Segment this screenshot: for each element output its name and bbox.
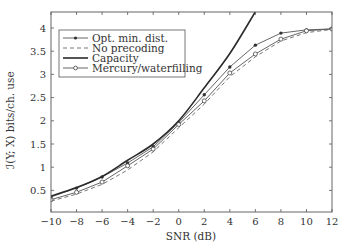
x-tick-label: 8 — [278, 216, 284, 227]
y-tick-label: 3.5 — [30, 46, 46, 57]
y-tick-label: 2 — [40, 115, 46, 126]
legend-dot-marker-icon — [74, 36, 77, 39]
x-tick-label: 0 — [176, 216, 182, 227]
circle-marker-icon — [100, 180, 104, 184]
x-tick-label: −8 — [69, 216, 84, 227]
x-axis-label: SNR (dB) — [166, 230, 216, 242]
mutual-information-chart: −10−8−6−4−2024681012 0.511.522.533.54 SN… — [0, 0, 351, 251]
x-tick-label: 10 — [300, 216, 313, 227]
legend: Opt. min. dist. No precoding Capacity Me… — [59, 30, 203, 77]
circle-marker-icon — [304, 29, 308, 33]
x-tick-label: 2 — [201, 216, 207, 227]
circle-marker-icon — [177, 123, 181, 127]
x-tick-label: −4 — [120, 216, 135, 227]
y-tick-label: 1.5 — [30, 139, 46, 150]
dot-marker-icon — [228, 65, 231, 68]
circle-marker-icon — [279, 37, 283, 41]
y-tick-label: 0.5 — [30, 185, 46, 196]
x-tick-label: 6 — [252, 216, 258, 227]
legend-label: Mercury/waterfilling — [92, 62, 203, 74]
dot-marker-icon — [203, 93, 206, 96]
dot-marker-icon — [279, 31, 282, 34]
y-tick-label: 4 — [40, 23, 46, 34]
circle-marker-icon — [253, 52, 257, 56]
x-tick-label: 4 — [227, 216, 233, 227]
circle-marker-icon — [126, 164, 130, 168]
circle-marker-icon — [228, 71, 232, 75]
y-tick-label: 1 — [40, 162, 46, 173]
circle-marker-icon — [202, 99, 206, 103]
x-tick-label: −10 — [40, 216, 61, 227]
y-tick-label: 3 — [40, 69, 46, 80]
x-tick-label: 12 — [326, 216, 339, 227]
circle-marker-icon — [151, 147, 155, 151]
circle-marker-icon — [75, 190, 79, 194]
dot-marker-icon — [254, 43, 257, 46]
y-tick-label: 2.5 — [30, 92, 46, 103]
x-tick-label: −6 — [95, 216, 110, 227]
y-axis-label: ℐ(Y; X) bits/ch. use — [4, 71, 16, 168]
legend-circle-marker-icon — [74, 66, 78, 70]
x-tick-label: −2 — [146, 216, 161, 227]
